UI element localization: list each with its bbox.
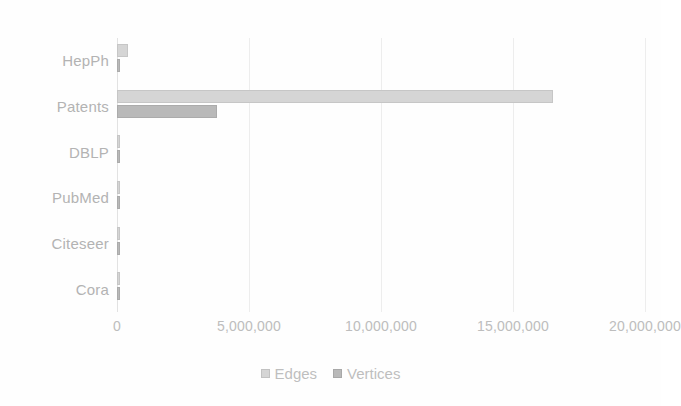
bar-group (117, 266, 645, 312)
bar-rect (117, 150, 120, 163)
bar-rect (117, 196, 120, 209)
bar-edges (117, 135, 120, 148)
value-axis-tick-label: 10,000,000 (345, 318, 417, 334)
category-label: Cora (0, 266, 109, 312)
bar-edges (117, 181, 120, 194)
bar-vertices (117, 242, 120, 255)
bar-rect (117, 135, 120, 148)
bar-edges (117, 227, 120, 240)
bar-rect (117, 272, 120, 285)
bar-rect (117, 59, 120, 72)
bar-rect (117, 90, 553, 103)
bar-rect (117, 105, 217, 118)
bar-rect (117, 181, 120, 194)
bar-vertices (117, 196, 120, 209)
legend-label: Edges (275, 365, 318, 382)
category-label: DBLP (0, 129, 109, 175)
legend-swatch-icon (333, 369, 342, 378)
bar-group (117, 84, 645, 130)
bar-group (117, 38, 645, 84)
bar-group (117, 129, 645, 175)
bar-rect (117, 44, 128, 57)
gridline-4 (645, 38, 646, 312)
legend-item-edges[interactable]: Edges (261, 365, 318, 382)
category-label: Patents (0, 84, 109, 130)
category-label: HepPh (0, 38, 109, 84)
bar-edges (117, 90, 553, 103)
bar-group (117, 221, 645, 267)
value-axis-tick-label: 15,000,000 (477, 318, 549, 334)
value-axis-tick-label: 5,000,000 (217, 318, 281, 334)
bar-edges (117, 44, 128, 57)
value-axis-tick-label: 20,000,000 (609, 318, 681, 334)
plot-area (117, 38, 645, 312)
category-label: Citeseer (0, 221, 109, 267)
bar-vertices (117, 287, 120, 300)
bar-rect (117, 242, 120, 255)
bar-edges (117, 272, 120, 285)
category-label: PubMed (0, 175, 109, 221)
category-axis-labels: HepPhPatentsDBLPPubMedCiteseerCora (0, 38, 109, 312)
chart-legend: EdgesVertices (0, 365, 661, 382)
legend-item-vertices[interactable]: Vertices (333, 365, 400, 382)
bar-rect (117, 287, 120, 300)
bar-vertices (117, 105, 217, 118)
value-axis-labels: 05,000,00010,000,00015,000,00020,000,000 (0, 318, 661, 342)
legend-label: Vertices (347, 365, 400, 382)
legend-swatch-icon (261, 369, 270, 378)
bar-group (117, 175, 645, 221)
bar-vertices (117, 150, 120, 163)
bar-rect (117, 227, 120, 240)
value-axis-tick-label: 0 (113, 318, 121, 334)
bar-vertices (117, 59, 120, 72)
